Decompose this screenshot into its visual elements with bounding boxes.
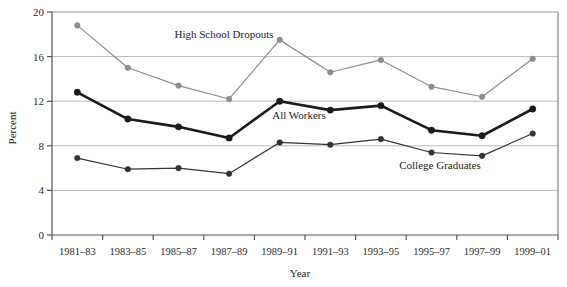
data-series-group xyxy=(74,23,536,177)
data-point xyxy=(125,116,131,122)
data-point xyxy=(327,107,333,113)
x-axis-tick-label: 1981–83 xyxy=(59,246,96,257)
data-point xyxy=(226,96,232,102)
data-point xyxy=(530,106,536,112)
y-axis-tick-label: 8 xyxy=(39,140,45,152)
data-point xyxy=(530,131,536,137)
x-axis-tick-label: 1989–91 xyxy=(261,246,298,257)
series-annotations-group: High School DropoutsAll WorkersCollege G… xyxy=(175,28,481,171)
data-point xyxy=(378,102,384,108)
data-point xyxy=(75,23,81,29)
data-point xyxy=(176,165,182,171)
series-annotation-label: All Workers xyxy=(272,109,326,121)
y-axis-tick-label: 0 xyxy=(39,229,45,241)
y-axis-tick-label: 16 xyxy=(33,51,45,63)
data-point xyxy=(74,89,80,95)
data-point xyxy=(125,65,131,71)
series-annotation-label: High School Dropouts xyxy=(175,28,274,40)
series-high-school-dropouts xyxy=(75,23,536,102)
gridlines-group xyxy=(52,12,558,190)
data-point xyxy=(328,142,334,148)
data-point xyxy=(428,127,434,133)
data-point xyxy=(378,57,384,63)
data-point xyxy=(176,83,182,89)
data-point xyxy=(328,69,334,75)
unemployment-rate-line-chart: 048121620 1981–831983–851985–871987–8919… xyxy=(0,0,567,287)
data-point xyxy=(429,84,435,90)
x-axis-tick-label: 1985–87 xyxy=(160,246,197,257)
data-point xyxy=(429,150,435,156)
x-axis-tick-label: 1995–97 xyxy=(413,246,450,257)
data-point xyxy=(125,166,131,172)
data-point xyxy=(75,155,81,161)
x-axis: 1981–831983–851985–871987–891989–911991–… xyxy=(52,235,558,257)
y-axis-tick-label: 12 xyxy=(33,95,44,107)
x-axis-title: Year xyxy=(290,267,311,279)
data-point xyxy=(226,135,232,141)
x-axis-tick-label: 1983–85 xyxy=(110,246,147,257)
x-axis-tick-label: 1987–89 xyxy=(211,246,248,257)
data-point xyxy=(175,124,181,130)
y-axis-tick-label: 20 xyxy=(33,6,45,18)
series-line xyxy=(77,25,532,99)
data-point xyxy=(277,140,283,146)
chart-plot-area: 048121620 1981–831983–851985–871987–8919… xyxy=(0,0,567,287)
x-axis-tick-label: 1997–99 xyxy=(464,246,501,257)
data-point xyxy=(226,171,232,177)
x-axis-tick-label: 1999–01 xyxy=(514,246,551,257)
data-point xyxy=(277,37,283,43)
data-point xyxy=(479,94,485,100)
data-point xyxy=(277,98,283,104)
x-axis-tick-label: 1991–93 xyxy=(312,246,349,257)
y-axis-tick-label: 4 xyxy=(39,184,45,196)
x-axis-tick-label: 1993–95 xyxy=(363,246,400,257)
plot-frame xyxy=(52,12,558,235)
y-axis: 048121620 xyxy=(33,6,52,241)
data-point xyxy=(479,153,485,159)
series-annotation-label: College Graduates xyxy=(399,159,481,171)
data-point xyxy=(479,133,485,139)
data-point xyxy=(530,56,536,62)
y-axis-title: Percent xyxy=(6,112,18,145)
data-point xyxy=(378,136,384,142)
